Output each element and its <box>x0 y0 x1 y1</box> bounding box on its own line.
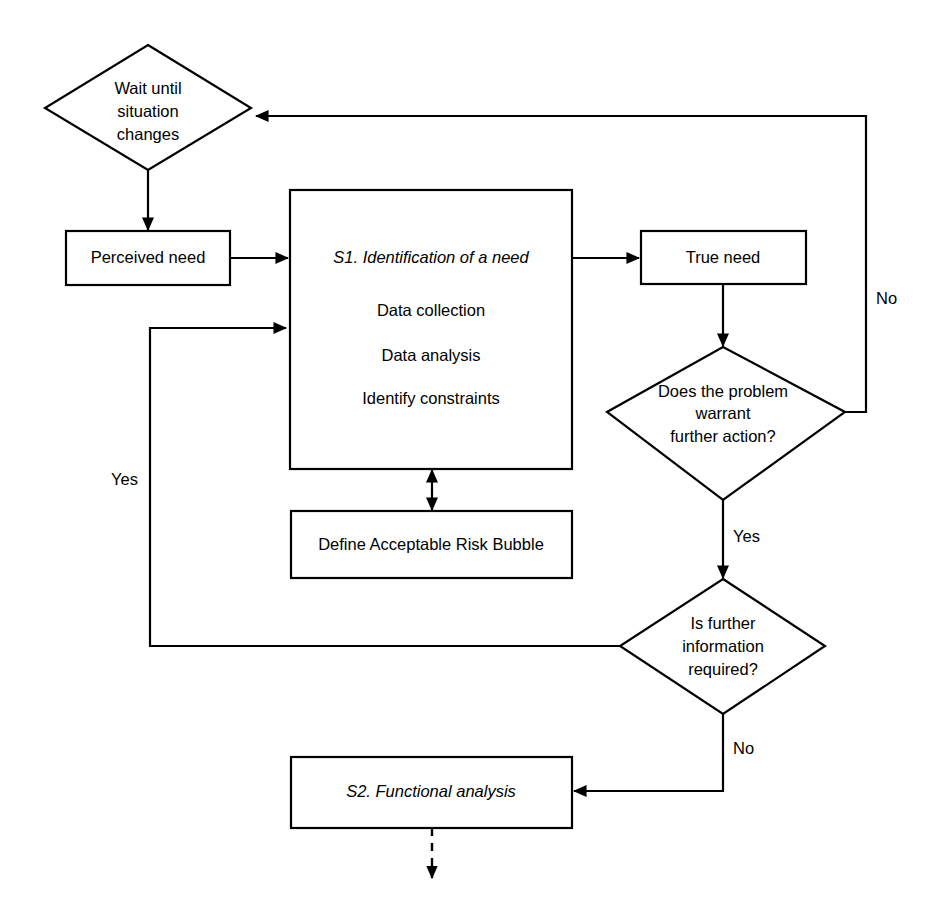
wait-label-line-2: situation <box>117 102 178 120</box>
wait-label-line-1: Wait until <box>114 79 181 97</box>
s1-box-shape <box>290 190 572 469</box>
warrant-diamond-shape <box>607 347 845 500</box>
s1-item-data-analysis: Data analysis <box>381 346 480 364</box>
node-wait-until-situation-changes[interactable]: Wait until situation changes <box>45 45 251 170</box>
s2-label: S2. Functional analysis <box>346 782 516 800</box>
warrant-label-line-1: Does the problem <box>658 382 788 400</box>
wait-label-line-3: changes <box>117 125 179 143</box>
info-label-line-2: information <box>682 637 764 655</box>
node-decision-warrant-further-action[interactable]: Does the problem warrant further action? <box>607 347 845 500</box>
info-label-line-1: Is further <box>690 614 756 632</box>
edge-label-info-yes: Yes <box>111 470 138 488</box>
warrant-label-line-3: further action? <box>670 427 775 445</box>
s1-item-data-collection: Data collection <box>377 301 485 319</box>
risk-bubble-label: Define Acceptable Risk Bubble <box>318 535 544 553</box>
flowchart-svg: Wait until situation changes Perceived n… <box>0 0 937 922</box>
edge-label-warrant-no: No <box>876 289 897 307</box>
warrant-label-line-2: warrant <box>694 404 750 422</box>
info-label-line-3: required? <box>688 660 758 678</box>
node-decision-further-information-required[interactable]: Is further information required? <box>620 579 825 714</box>
flowchart-canvas: Wait until situation changes Perceived n… <box>0 0 937 922</box>
node-s2-functional-analysis[interactable]: S2. Functional analysis <box>291 757 572 828</box>
perceived-need-label: Perceived need <box>91 248 206 266</box>
node-true-need[interactable]: True need <box>641 231 806 284</box>
s1-item-identify-constraints: Identify constraints <box>362 389 500 407</box>
true-need-label: True need <box>686 248 761 266</box>
edge-label-info-no: No <box>733 739 754 757</box>
node-s1-identification-of-a-need[interactable]: S1. Identification of a need Data collec… <box>290 190 572 469</box>
edge-label-warrant-yes: Yes <box>733 527 760 545</box>
node-define-acceptable-risk-bubble[interactable]: Define Acceptable Risk Bubble <box>291 511 572 578</box>
edge-info-no-to-s2 <box>574 714 723 791</box>
node-perceived-need[interactable]: Perceived need <box>66 231 230 285</box>
s1-title: S1. Identification of a need <box>333 248 529 266</box>
